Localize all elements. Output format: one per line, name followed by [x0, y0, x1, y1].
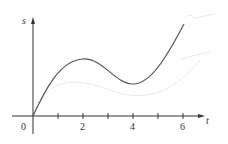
- x-axis-arrow-icon: [198, 114, 205, 118]
- position-curve: [33, 24, 184, 116]
- ghost-mark: [180, 52, 210, 60]
- ghost-mark: [185, 14, 215, 18]
- x-axis-label: t: [206, 115, 209, 126]
- origin-label: 0: [21, 121, 26, 132]
- y-axis-label: s: [22, 15, 26, 26]
- tick-label-2: 2: [80, 121, 85, 132]
- tick-label-4: 4: [130, 121, 135, 132]
- y-axis-arrow-icon: [31, 17, 35, 24]
- tick-label-6: 6: [180, 121, 185, 132]
- position-time-graph: s t 0 2 4 6: [0, 0, 228, 144]
